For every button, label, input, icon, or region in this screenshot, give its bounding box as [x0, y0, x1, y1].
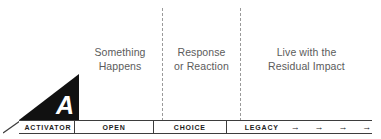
activator-timeline-diagram: Something Happens Response or Reaction L… — [0, 0, 381, 139]
phase-description-legacy-line1: Live with the — [241, 46, 372, 60]
phase-description-open-line1: Something — [78, 46, 162, 60]
bar-cell-open: OPEN — [75, 121, 154, 133]
arrow-right-icon: → — [315, 123, 325, 132]
phase-description-choice-line1: Response — [163, 46, 240, 60]
bar-label-open: OPEN — [103, 124, 126, 131]
bar-cell-choice: CHOICE — [154, 121, 227, 133]
bar-label-choice: CHOICE — [174, 124, 206, 131]
bar-label-legacy: LEGACY — [245, 124, 279, 131]
phase-description-open: Something Happens — [78, 46, 162, 73]
activator-letter-a: A — [56, 93, 74, 118]
bar-label-activator: ACTIVATOR — [24, 124, 71, 131]
phase-description-open-line2: Happens — [78, 60, 162, 74]
timeline-bar: ACTIVATOR OPEN CHOICE LEGACY → → → → — [19, 120, 372, 134]
phase-description-legacy: Live with the Residual Impact — [241, 46, 372, 73]
activator-triangle: A — [19, 74, 79, 120]
legacy-arrow-group: → → → → — [291, 123, 372, 132]
phase-description-choice: Response or Reaction — [163, 46, 240, 73]
arrow-right-icon: → — [291, 123, 301, 132]
phase-description-legacy-line2: Residual Impact — [241, 60, 372, 74]
phase-description-choice-line2: or Reaction — [163, 60, 240, 74]
arrow-right-icon: → — [362, 123, 372, 132]
arrow-right-icon: → — [338, 123, 348, 132]
bar-cell-activator: ACTIVATOR — [19, 121, 75, 133]
bar-cell-legacy: LEGACY → → → → — [227, 121, 372, 133]
